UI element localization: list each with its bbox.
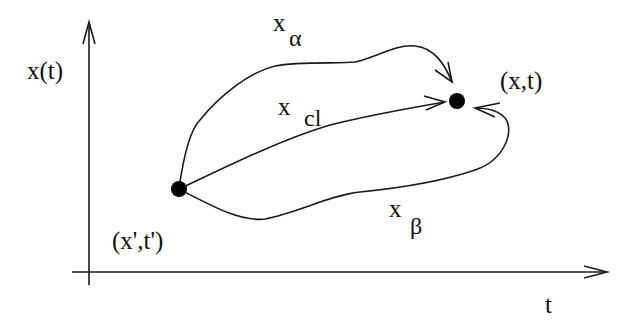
path-beta-arrowhead-icon bbox=[475, 103, 500, 117]
path-beta-subscript: β bbox=[410, 214, 422, 238]
path-alpha-base: x bbox=[273, 10, 286, 35]
path-classical-base: x bbox=[278, 94, 291, 119]
start-point bbox=[171, 181, 187, 197]
x-axis-label: t bbox=[545, 292, 552, 317]
y-axis-label: x(t) bbox=[27, 58, 63, 83]
path-alpha-subscript: α bbox=[289, 26, 302, 50]
start-point-label: (x',t') bbox=[112, 228, 163, 253]
path-classical-arrowhead-icon bbox=[424, 96, 445, 110]
diagram-canvas bbox=[0, 0, 639, 327]
path-classical-subscript: cl bbox=[304, 106, 321, 130]
path-beta bbox=[179, 108, 509, 219]
end-point bbox=[449, 93, 465, 109]
path-beta-base: x bbox=[389, 196, 402, 221]
end-point-label: (x,t) bbox=[500, 68, 542, 93]
